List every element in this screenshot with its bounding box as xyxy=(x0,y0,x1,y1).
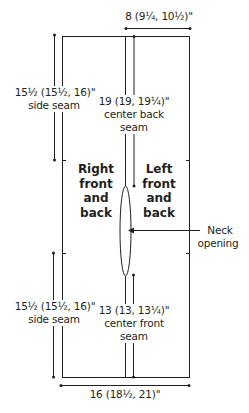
upper-side-seam-value: 15½ (15½, 16)" xyxy=(10,86,100,99)
right-panel-line4: back xyxy=(74,206,118,221)
center-back-value: 19 (19, 19¼)" xyxy=(98,95,170,108)
left-panel-line4: back xyxy=(137,206,181,221)
left-panel-label: Left front and back xyxy=(137,162,181,220)
schematic-drawing xyxy=(0,0,249,413)
center-back-name-line2: seam xyxy=(118,121,150,134)
dim-dot xyxy=(133,185,136,188)
left-panel-line1: Left xyxy=(137,162,181,177)
dim-dot xyxy=(60,384,63,387)
right-panel-line1: Right xyxy=(74,162,118,177)
lower-side-seam-value: 15½ (15½, 16)" xyxy=(10,300,100,313)
center-front-name-line2: seam xyxy=(118,330,150,343)
bottom-width-label: 16 (18½, 21)" xyxy=(85,388,165,401)
dim-dot xyxy=(188,384,191,387)
dim-dot xyxy=(53,34,56,37)
center-front-name-line1: center front xyxy=(100,317,168,330)
dim-dot xyxy=(53,159,56,162)
left-panel-line2: front xyxy=(137,177,181,192)
lower-side-seam-name: side seam xyxy=(24,313,84,326)
dim-dot xyxy=(133,35,136,38)
right-panel-label: Right front and back xyxy=(74,162,118,220)
dim-dot xyxy=(132,274,135,277)
center-back-name-line1: center back xyxy=(102,108,166,121)
dim-dot xyxy=(52,376,55,379)
right-panel-line3: and xyxy=(74,191,118,206)
upper-side-seam-name: side seam xyxy=(24,99,84,112)
right-panel-line2: front xyxy=(74,177,118,192)
neck-opening-line2: opening xyxy=(193,237,243,250)
dim-dot xyxy=(189,27,192,30)
left-panel-line3: and xyxy=(137,191,181,206)
dim-dot xyxy=(125,27,128,30)
neck-opening-line1: Neck xyxy=(200,224,240,237)
dim-dot xyxy=(52,252,55,255)
top-width-label: 8 (9¼, 10½)" xyxy=(124,10,194,23)
center-front-value: 13 (13, 13¼)" xyxy=(97,304,171,317)
dim-dot xyxy=(132,376,135,379)
